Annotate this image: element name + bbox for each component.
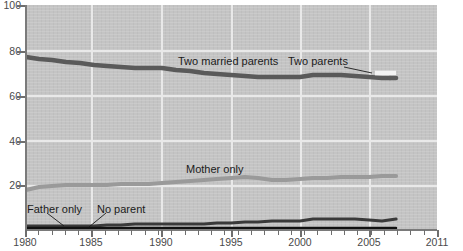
series-label-mother-only: Mother only xyxy=(186,163,243,175)
x-axis-label-2011: 2011 xyxy=(417,237,457,248)
x-axis-minor-tick-1996 xyxy=(238,230,239,235)
y-axis-tick-40 xyxy=(17,141,25,143)
x-axis-minor-tick-1987 xyxy=(118,230,119,235)
x-axis-minor-tick-2000 xyxy=(291,230,292,235)
x-axis-minor-tick-2004 xyxy=(344,230,345,235)
x-axis-minor-tick-1982 xyxy=(52,230,53,235)
x-axis-minor-tick-1993 xyxy=(198,230,199,235)
x-axis-label-2000: 2000 xyxy=(280,237,320,248)
x-axis-minor-tick-1981 xyxy=(38,230,39,235)
gridline-x-2000 xyxy=(300,5,302,230)
x-axis-minor-tick-1980 xyxy=(25,230,26,235)
x-axis-minor-tick-2008 xyxy=(397,230,398,235)
x-axis-label-1985: 1985 xyxy=(71,237,111,248)
x-axis-minor-tick-2009 xyxy=(410,230,411,235)
series-label-two-parents: Two parents xyxy=(288,55,348,67)
x-axis-minor-tick-2003 xyxy=(331,230,332,235)
x-axis-minor-tick-1990 xyxy=(158,230,159,235)
x-axis-minor-tick-1984 xyxy=(78,230,79,235)
x-axis-minor-tick-2007 xyxy=(384,230,385,235)
x-axis-minor-tick-1998 xyxy=(264,230,265,235)
x-axis-minor-tick-1995 xyxy=(224,230,225,235)
x-axis-label-1980: 1980 xyxy=(5,237,45,248)
x-axis-minor-tick-1986 xyxy=(105,230,106,235)
x-axis-minor-tick-1999 xyxy=(278,230,279,235)
x-axis-minor-tick-1989 xyxy=(145,230,146,235)
gridline-x-1985 xyxy=(91,5,93,230)
gridline-x-1995 xyxy=(231,5,233,230)
plot-area xyxy=(25,5,437,230)
x-axis-minor-tick-1994 xyxy=(211,230,212,235)
y-axis-tick-60 xyxy=(17,96,25,98)
x-axis-minor-tick-1997 xyxy=(251,230,252,235)
x-axis-minor-tick-2011 xyxy=(437,230,438,235)
line-chart: Two married parents Two parents Mother o… xyxy=(0,0,463,251)
series-label-two-married-parents: Two married parents xyxy=(178,55,278,67)
x-axis-minor-tick-2006 xyxy=(371,230,372,235)
series-label-father-only: Father only xyxy=(27,203,82,215)
x-axis-minor-tick-2005 xyxy=(357,230,358,235)
x-axis-minor-tick-1985 xyxy=(92,230,93,235)
y-axis-tick-100 xyxy=(17,5,25,7)
gridline-x-1990 xyxy=(161,5,163,230)
y-axis-line xyxy=(25,5,27,231)
series-label-no-parent: No parent xyxy=(97,203,145,215)
x-axis-minor-tick-2001 xyxy=(304,230,305,235)
x-axis-label-1990: 1990 xyxy=(141,237,181,248)
y-axis-tick-80 xyxy=(17,51,25,53)
x-axis-minor-tick-1988 xyxy=(131,230,132,235)
x-axis-minor-tick-2010 xyxy=(424,230,425,235)
x-axis-minor-tick-2002 xyxy=(317,230,318,235)
gridline-x-2005 xyxy=(369,5,371,230)
x-axis-label-2005: 2005 xyxy=(349,237,389,248)
x-axis-minor-tick-1983 xyxy=(65,230,66,235)
x-axis-minor-tick-1991 xyxy=(171,230,172,235)
x-axis-label-1995: 1995 xyxy=(211,237,251,248)
x-axis-minor-tick-1992 xyxy=(185,230,186,235)
y-axis-tick-20 xyxy=(17,185,25,187)
